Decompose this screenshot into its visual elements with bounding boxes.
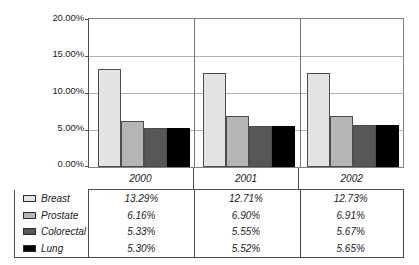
legend-swatch-icon-prostate (23, 212, 36, 219)
table-separator-1 (194, 190, 195, 257)
legend-swatch-icon-colorectal (23, 228, 36, 235)
table-row-breast: Breast 13.29% 12.71% 12.73% (15, 190, 403, 207)
legend-entry-prostate: Prostate (15, 210, 89, 221)
table-separator-2 (300, 190, 301, 257)
legend-label-colorectal: Colorectal (41, 226, 86, 237)
bar-breast-2001 (203, 73, 226, 167)
cell-colorectal-2000: 5.33% (89, 226, 194, 237)
bar-lung-2002 (376, 125, 399, 167)
bar-prostate-2002 (330, 116, 353, 167)
legend-entry-lung: Lung (15, 243, 89, 254)
bar-group-2001 (194, 19, 299, 167)
cell-lung-2001: 5.52% (194, 243, 299, 254)
year-header-2002: 2002 (298, 168, 404, 189)
bar-colorectal-2000 (144, 128, 167, 167)
cell-colorectal-2002: 5.67% (298, 226, 403, 237)
bar-colorectal-2002 (353, 125, 376, 167)
cell-breast-2001: 12.71% (194, 193, 299, 204)
chart-figure: 20.00% 15.00% 10.00% 5.00% 0.00% (0, 0, 419, 265)
y-tick-label-0: 0.00% (16, 159, 84, 169)
bar-colorectal-2001 (249, 126, 272, 167)
legend-swatch-icon-lung (23, 245, 36, 252)
bar-prostate-2001 (226, 116, 249, 167)
cell-lung-2000: 5.30% (89, 243, 194, 254)
legend-swatch-icon-breast (23, 195, 36, 202)
y-tick-label-20: 20.00% (16, 13, 84, 23)
bar-prostate-2000 (121, 121, 144, 167)
bar-lung-2000 (167, 128, 190, 167)
cell-prostate-2000: 6.16% (89, 210, 194, 221)
year-header-2000: 2000 (88, 168, 193, 189)
bar-groups (89, 19, 403, 167)
y-tick-label-5: 5.00% (16, 123, 84, 133)
cell-breast-2002: 12.73% (298, 193, 403, 204)
bar-breast-2002 (307, 73, 330, 167)
bar-lung-2001 (272, 126, 295, 167)
plot-area (88, 18, 404, 168)
legend-entry-colorectal: Colorectal (15, 226, 89, 237)
cell-lung-2002: 5.65% (298, 243, 403, 254)
year-header-2001: 2001 (193, 168, 299, 189)
year-header-row: 2000 2001 2002 (88, 168, 404, 190)
table-row-colorectal: Colorectal 5.33% 5.55% 5.67% (15, 224, 403, 241)
y-axis-labels: 20.00% 15.00% 10.00% 5.00% 0.00% (16, 13, 84, 168)
cell-prostate-2002: 6.91% (298, 210, 403, 221)
bar-breast-2000 (98, 69, 121, 167)
legend-data-table: Breast 13.29% 12.71% 12.73% Prostate 6.1… (14, 190, 404, 258)
cell-colorectal-2001: 5.55% (194, 226, 299, 237)
legend-entry-breast: Breast (15, 193, 89, 204)
table-separator-labels (88, 190, 89, 257)
legend-label-breast: Breast (41, 193, 70, 204)
cell-prostate-2001: 6.90% (194, 210, 299, 221)
legend-label-lung: Lung (41, 243, 63, 254)
y-tick-label-10: 10.00% (16, 86, 84, 96)
cell-breast-2000: 13.29% (89, 193, 194, 204)
legend-label-prostate: Prostate (41, 210, 78, 221)
bar-group-2000 (89, 19, 194, 167)
table-row-prostate: Prostate 6.16% 6.90% 6.91% (15, 207, 403, 224)
table-row-lung: Lung 5.30% 5.52% 5.65% (15, 240, 403, 257)
bar-group-2002 (298, 19, 403, 167)
y-tick-label-15: 15.00% (16, 49, 84, 59)
